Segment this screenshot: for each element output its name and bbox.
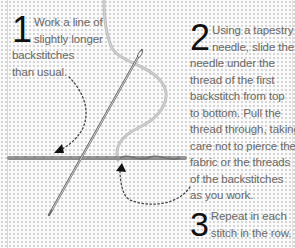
step-text-line: of the backstitches [190,171,295,188]
step-text-line: care not to pierce the [190,138,295,155]
step-2: 2 Using a tapestry needle, slide the nee… [190,22,295,204]
stitch-instruction-illustration: 1 Work a line of slightly longer backsti… [0,0,295,248]
step-3: 3 Repeat in each stitch in the row. [190,208,295,241]
arrowhead-icon [116,163,126,172]
dotted-arrow-step2 [120,170,190,204]
step-1: 1 Work a line of slightly longer backsti… [12,14,122,80]
step-text-line: needle under the [190,55,295,72]
step-number: 3 [190,210,209,238]
step-number: 2 [190,24,210,52]
step-text-line: backstitches [12,47,122,64]
step-number: 1 [12,16,32,44]
step-text-line: backstitch from top [190,88,295,105]
step-text-line: than usual. [12,64,122,81]
step-text-line: to bottom. Pull the [190,105,295,122]
arrowhead-icon [54,144,64,153]
step-text-line: as you work. [190,187,295,204]
step-text-line: fabric or the threads [190,154,295,171]
step-text-line: thread through, taking [190,121,295,138]
step-text-line: thread of the first [190,72,295,89]
dotted-arrow-step1 [60,77,86,150]
